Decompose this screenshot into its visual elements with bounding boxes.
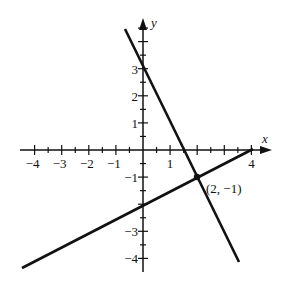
x-tick-label: 1 [167,156,174,171]
x-tick-label: −1 [107,156,121,171]
y-tick-label: 3 [132,62,139,77]
y-tick-label: −4 [124,251,138,266]
x-tick-label: −2 [80,156,94,171]
x-axis-label: x [261,131,268,146]
y-tick-label: 1 [132,116,139,131]
intersection-point [194,174,200,180]
y-tick-label: −3 [124,224,138,239]
y-tick-labels: 321−1−3−4 [124,62,138,267]
y-tick-label: 2 [132,89,139,104]
x-tick-label: 4 [248,156,255,171]
point-label: (2, −1) [206,181,242,196]
coordinate-plane: x y −4−3−2−114 321−1−3−4 (2, −1) [0,0,284,292]
y-tick-label: −1 [124,170,138,185]
line-steep [125,29,239,262]
x-tick-label: −4 [26,156,40,171]
x-tick-label: −3 [53,156,67,171]
y-axis-label: y [149,15,157,30]
x-axis-arrow-icon [260,146,272,154]
